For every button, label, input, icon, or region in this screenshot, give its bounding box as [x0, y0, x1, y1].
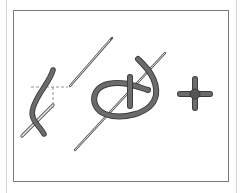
step-1-group — [22, 70, 68, 136]
french-knot-illustration — [0, 0, 244, 193]
thread-loop-icon — [94, 59, 156, 116]
step-3-knot-icon — [180, 79, 210, 108]
thread-icon — [32, 70, 53, 134]
step-2-group — [75, 53, 165, 150]
needle-icon — [70, 38, 112, 86]
